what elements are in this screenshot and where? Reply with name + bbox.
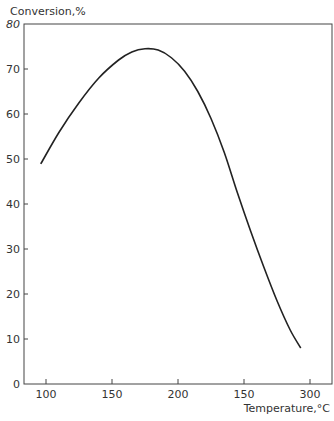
y-tick-label: 80: [6, 18, 20, 31]
x-tick-label: 300: [300, 388, 321, 401]
x-tick-label: 150: [234, 388, 255, 401]
y-tick-label: 30: [6, 243, 20, 256]
y-tick-label: 50: [6, 153, 20, 166]
y-tick-label: 0: [13, 378, 20, 391]
plot-frame: [24, 24, 332, 384]
y-tick-label: 10: [6, 333, 20, 346]
y-axis-ticks: 01020304050607080: [6, 18, 28, 391]
x-tick-label: 150: [102, 388, 123, 401]
x-axis-ticks: 100150200150300: [36, 379, 321, 401]
y-tick-label: 70: [6, 63, 20, 76]
x-axis-label: Temperature,°C: [243, 402, 331, 415]
y-tick-label: 20: [6, 288, 20, 301]
y-tick-label: 60: [6, 108, 20, 121]
chart-container: Conversion,% Temperature,°C 010203040506…: [0, 0, 334, 421]
x-tick-label: 100: [36, 388, 57, 401]
y-axis-label: Conversion,%: [10, 5, 86, 18]
conversion-curve: [41, 49, 301, 348]
line-chart: Conversion,% Temperature,°C 010203040506…: [0, 0, 334, 421]
x-tick-label: 200: [168, 388, 189, 401]
y-tick-label: 40: [6, 198, 20, 211]
